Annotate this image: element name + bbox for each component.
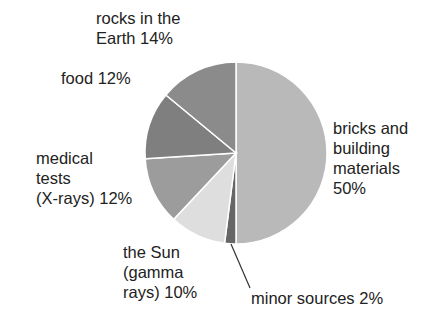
label-medical-tests: medical tests (X-rays) 12% bbox=[36, 148, 132, 208]
label-bricks-and-building-materials: bricks and building materials 50% bbox=[333, 118, 408, 198]
label-the-sun: the Sun (gamma rays) 10% bbox=[123, 242, 197, 302]
label-rocks-in-the-earth: rocks in the Earth 14% bbox=[96, 8, 180, 48]
minor-sources-pointer-line bbox=[231, 244, 250, 288]
pie-slice-bricks-and-building-materials bbox=[236, 62, 327, 244]
label-minor-sources: minor sources 2% bbox=[251, 288, 383, 308]
label-food: food 12% bbox=[61, 68, 131, 88]
pie-slices bbox=[145, 62, 327, 244]
